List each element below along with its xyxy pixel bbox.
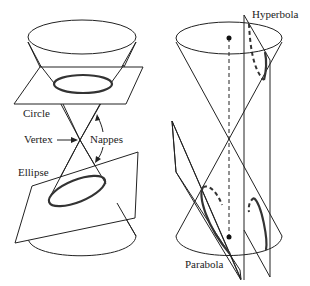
label-vertex: Vertex — [24, 133, 53, 145]
upper-nappe-rim — [28, 20, 136, 54]
vertex-arrowhead-icon — [71, 137, 78, 143]
conic-sections-diagram: Circle Vertex Nappes Ellipse — [0, 0, 310, 286]
upper-axis-point — [227, 36, 232, 41]
circle-cutting-plane — [14, 67, 143, 104]
lower-nappe-base — [28, 236, 136, 256]
parabola-plane-right-edge — [172, 121, 241, 280]
upper-nappe-left-top — [28, 42, 40, 67]
hyperbola-upper-solid — [264, 52, 266, 80]
nappes-arrowhead-down-icon — [95, 156, 101, 163]
label-parabola: Parabola — [185, 258, 224, 270]
label-nappes: Nappes — [90, 133, 123, 145]
right-labels: Hyperbola Parabola — [185, 8, 299, 270]
label-circle: Circle — [23, 107, 50, 119]
hyperbola-lower-solid — [254, 198, 266, 250]
upper-nappe-right-top — [124, 42, 136, 67]
upper-nappe-left-lower — [63, 104, 80, 140]
right-double-cone — [172, 15, 282, 280]
lower-axis-point — [227, 235, 232, 240]
hyperbola-lower-dashed — [249, 198, 254, 212]
label-ellipse: Ellipse — [18, 166, 49, 178]
label-hyperbola: Hyperbola — [252, 8, 299, 20]
nappes-arrowhead-up-icon — [95, 114, 100, 121]
parabola-curve-dashed — [203, 186, 222, 205]
